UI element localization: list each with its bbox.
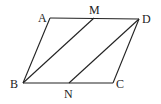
label-D: D [142, 12, 151, 26]
geometry-diagram: A M D B N C [0, 0, 161, 104]
segment-AD [50, 18, 139, 19]
label-C: C [116, 77, 124, 91]
label-B: B [10, 77, 18, 91]
segment-ND [69, 19, 139, 83]
label-M: M [89, 3, 100, 17]
segment-DC [113, 19, 139, 83]
segment-BA [23, 18, 50, 83]
label-N: N [64, 87, 73, 101]
label-A: A [38, 11, 47, 25]
segment-BM [23, 18, 94, 83]
